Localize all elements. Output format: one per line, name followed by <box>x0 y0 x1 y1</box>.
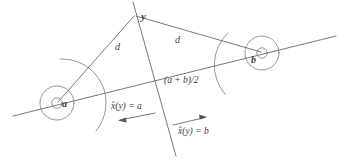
label-midpoint: (a + b)/2 <box>164 76 198 86</box>
label-point-y: y <box>141 11 146 22</box>
label-decision-region-a: x̂(y) = a <box>111 102 142 112</box>
figure-canvas: y d d a b (a + b)/2 x̂(y) = a x̂(y) = b <box>0 0 347 161</box>
label-prototype-b: b <box>251 55 256 65</box>
label-prototype-a: a <box>62 99 67 109</box>
label-decision-region-b: x̂(y) = b <box>178 127 209 137</box>
segment-y-to-b <box>136 16 261 52</box>
prototype-b-inner-circle <box>257 48 267 58</box>
prototype-a-inner-circle <box>52 98 62 108</box>
prototype-a-outer-circle <box>40 86 74 120</box>
label-distance-left: d <box>115 42 120 52</box>
arrow-region-b <box>173 115 207 125</box>
label-distance-right: d <box>175 35 180 45</box>
arrow-region-a <box>118 113 155 122</box>
